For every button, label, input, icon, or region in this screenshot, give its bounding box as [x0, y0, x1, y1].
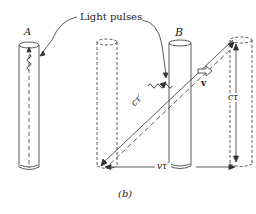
clock-ghost-left	[97, 39, 117, 169]
clock-a	[19, 42, 39, 170]
light-pulses-callout: Light pulses	[80, 12, 142, 22]
base-label: vτ′	[155, 162, 171, 171]
callout-line-b	[142, 20, 166, 75]
clock-a-label: A	[24, 27, 31, 37]
clock-b-label: B	[175, 27, 183, 38]
light-clock-diagram	[0, 0, 256, 214]
clock-b	[148, 40, 191, 169]
velocity-arrow-icon	[198, 66, 212, 76]
figure-caption: (b)	[118, 189, 132, 199]
callout-line-a	[42, 17, 77, 53]
hypotenuse-line	[104, 40, 233, 162]
velocity-label: v	[201, 79, 206, 88]
light-path-dashed	[110, 48, 232, 164]
vertical-label: cτ	[228, 93, 238, 102]
